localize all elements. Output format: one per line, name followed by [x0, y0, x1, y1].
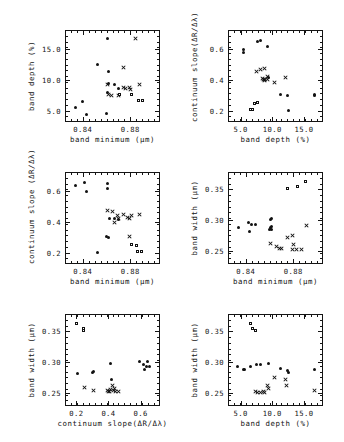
data-point-filled_circle [76, 372, 79, 375]
axis-tick-major-y [228, 393, 233, 394]
axis-tick-major-x [108, 314, 109, 319]
axis-tick-minor [65, 88, 68, 89]
axis-tick-major-y [155, 393, 160, 394]
axis-tick-minor [65, 36, 68, 37]
axis-tick-major-x [241, 117, 242, 122]
axis-tick-minor [234, 314, 235, 317]
axis-tick-major-x [241, 401, 242, 406]
axis-tick-minor [65, 247, 68, 248]
y-axis-label-p5: band width (µm) [27, 314, 36, 406]
data-point-cross [105, 208, 110, 213]
axis-tick-minor [228, 82, 231, 83]
data-point-cross [272, 80, 277, 85]
axis-tick-major-y [65, 222, 70, 223]
axis-tick-major-x [293, 259, 294, 264]
axis-tick-minor [157, 201, 160, 202]
plot-frame-p1 [65, 30, 160, 122]
axis-tick-minor [320, 99, 323, 100]
axis-tick-minor [71, 30, 72, 33]
data-point-filled_circle [96, 251, 99, 254]
axis-tick-minor [157, 372, 160, 373]
axis-tick-minor [270, 403, 271, 406]
axis-tick-minor [228, 366, 231, 367]
axis-tick-minor [107, 261, 108, 264]
axis-tick-minor [234, 403, 235, 406]
axis-tick-minor [89, 30, 90, 33]
axis-tick-minor [136, 403, 137, 406]
axis-tick-minor [157, 195, 160, 196]
data-point-cross [284, 383, 289, 388]
axis-tick-minor [252, 30, 253, 33]
data-point-open_square [135, 244, 138, 247]
data-point-cross [283, 377, 288, 382]
data-point-open_square [136, 250, 139, 253]
y-axis-label-p6: band width (µm) [190, 314, 199, 406]
x-tick-label: 10.0 [258, 125, 286, 134]
axis-tick-minor [65, 230, 68, 231]
axis-tick-minor [228, 320, 231, 321]
axis-tick-minor [228, 76, 231, 77]
axis-tick-minor [124, 172, 125, 175]
data-point-cross [112, 220, 117, 225]
axis-tick-minor [157, 349, 160, 350]
axis-tick-minor [157, 178, 160, 179]
x-tick-label: 5.0 [227, 409, 255, 418]
axis-tick-minor [320, 337, 323, 338]
data-point-open_square [286, 187, 289, 190]
axis-tick-minor [246, 314, 247, 317]
axis-tick-major-y [155, 191, 160, 192]
axis-tick-minor [258, 30, 259, 33]
axis-tick-major-x [83, 172, 84, 177]
axis-tick-minor [264, 314, 265, 317]
axis-tick-major-x [241, 314, 242, 319]
axis-tick-minor [305, 403, 306, 406]
axis-tick-minor [136, 172, 137, 175]
x-tick-label: 15.0 [290, 125, 318, 134]
axis-tick-minor [118, 30, 119, 33]
axis-tick-minor [65, 235, 68, 236]
data-point-cross [116, 389, 121, 394]
axis-tick-minor [65, 258, 68, 259]
axis-tick-major-y [228, 111, 233, 112]
axis-tick-minor [228, 258, 231, 259]
axis-tick-minor [157, 235, 160, 236]
data-point-filled_circle [313, 368, 316, 371]
axis-tick-minor [228, 372, 231, 373]
axis-tick-minor [157, 105, 160, 106]
axis-tick-minor [228, 88, 231, 89]
axis-tick-minor [101, 403, 102, 406]
axis-tick-minor [317, 314, 318, 317]
axis-tick-minor [130, 314, 131, 317]
axis-tick-minor [154, 261, 155, 264]
data-point-cross [279, 246, 284, 251]
axis-tick-minor [320, 377, 323, 378]
axis-tick-minor [228, 326, 231, 327]
axis-tick-minor [281, 314, 282, 317]
x-tick-label: 0.6 [127, 409, 155, 418]
axis-tick-minor [148, 261, 149, 264]
axis-tick-minor [320, 372, 323, 373]
plot-frame-p2 [228, 30, 323, 122]
axis-tick-major-y [318, 49, 323, 50]
axis-tick-minor [317, 403, 318, 406]
axis-tick-minor [65, 195, 68, 196]
axis-tick-minor [107, 30, 108, 33]
axis-tick-minor [320, 400, 323, 401]
axis-tick-minor [270, 30, 271, 33]
axis-tick-minor [228, 184, 231, 185]
axis-tick-minor [157, 366, 160, 367]
axis-tick-minor [77, 172, 78, 175]
axis-tick-minor [320, 247, 323, 248]
axis-tick-major-y [318, 393, 323, 394]
axis-tick-major-y [228, 251, 233, 252]
axis-tick-minor [320, 253, 323, 254]
axis-tick-minor [320, 354, 323, 355]
axis-tick-minor [157, 326, 160, 327]
y-axis-label-p2: continuum slope(ΔR∕Δλ) [190, 30, 199, 122]
x-axis-label-p4: band minimum (µm) [233, 277, 318, 286]
axis-tick-minor [252, 119, 253, 122]
data-point-filled_circle [106, 37, 109, 40]
axis-tick-minor [157, 212, 160, 213]
axis-tick-major-x [130, 172, 131, 177]
axis-tick-minor [157, 184, 160, 185]
